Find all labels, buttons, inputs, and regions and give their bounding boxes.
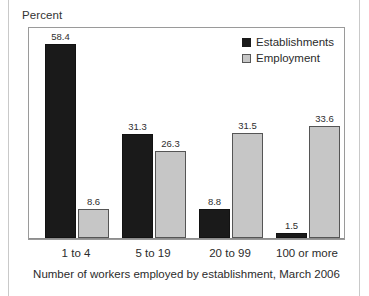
bar-value-establishments-2: 31.3: [128, 122, 147, 132]
cat-label-1: 1 to 4: [62, 247, 91, 259]
bar-group-20-to-99: 8.8 31.5: [195, 32, 267, 238]
bar-group-100-or-more: 1.5 33.6: [272, 32, 344, 238]
bar-wrap-establishments-2: 31.3: [122, 32, 153, 238]
bar-wrap-employment-3: 31.5: [232, 32, 263, 238]
bar-value-establishments-3: 8.8: [208, 197, 221, 207]
x-axis-caption: Number of workers employed by establishm…: [28, 268, 345, 280]
bar-value-employment-3: 31.5: [238, 121, 257, 131]
x-axis-baseline: [29, 238, 344, 239]
cat-label-4: 100 or more: [276, 247, 338, 259]
bar-value-establishments-4: 1.5: [285, 221, 298, 231]
bar-employment-2[interactable]: [155, 151, 186, 238]
plot-area: 58.4 8.6 31.3 26.3: [29, 28, 344, 239]
bar-value-establishments-1: 58.4: [51, 32, 70, 42]
bar-group-1-to-4: 58.4 8.6: [41, 32, 113, 238]
bar-employment-1[interactable]: [78, 209, 109, 238]
bar-employment-3[interactable]: [232, 133, 263, 238]
bar-wrap-establishments-4: 1.5: [276, 32, 307, 238]
bar-establishments-2[interactable]: [122, 134, 153, 238]
cat-label-3: 20 to 99: [209, 247, 251, 259]
bar-chart-figure: Percent Establishments Employment 58.4: [0, 0, 369, 296]
bar-wrap-employment-1: 8.6: [78, 32, 109, 238]
y-axis-title: Percent: [22, 9, 62, 21]
bar-value-employment-2: 26.3: [161, 139, 180, 149]
bar-establishments-4[interactable]: [276, 233, 307, 238]
cat-label-2: 5 to 19: [135, 247, 170, 259]
bar-wrap-employment-4: 33.6: [309, 32, 340, 238]
bar-value-employment-4: 33.6: [315, 114, 334, 124]
bar-value-employment-1: 8.6: [87, 197, 100, 207]
plot-frame: Establishments Employment 58.4 8.6: [28, 27, 345, 240]
bar-establishments-1[interactable]: [45, 44, 76, 238]
bar-group-5-to-19: 31.3 26.3: [118, 32, 190, 238]
bar-employment-4[interactable]: [309, 126, 340, 238]
x-axis-category-labels: 1 to 4 5 to 19 20 to 99 100 or more: [28, 247, 345, 263]
bar-establishments-3[interactable]: [199, 209, 230, 238]
bar-wrap-establishments-1: 58.4: [45, 32, 76, 238]
bar-wrap-establishments-3: 8.8: [199, 32, 230, 238]
bar-wrap-employment-2: 26.3: [155, 32, 186, 238]
